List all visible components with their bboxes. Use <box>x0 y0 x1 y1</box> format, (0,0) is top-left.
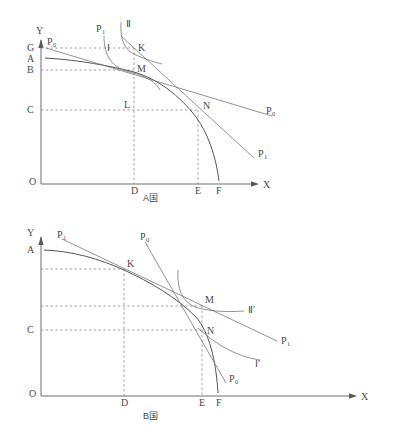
curve-label-p1-right-b: P 1 <box>281 335 290 347</box>
point-label-n-b: N <box>207 325 214 336</box>
tick-label-g-a: G <box>27 42 34 53</box>
svg-text:1: 1 <box>287 340 290 347</box>
curve-label-ic-two-a: Ⅱ <box>126 18 131 29</box>
svg-text:0: 0 <box>235 378 238 385</box>
point-label-k-a: K <box>138 42 146 53</box>
x-axis-label-a: X <box>263 179 271 190</box>
curve-label-p1-top-a: P 1 <box>96 23 105 35</box>
svg-text:1: 1 <box>63 234 66 241</box>
tick-label-b-a: B <box>27 64 34 75</box>
tick-label-c-b: C <box>27 324 34 335</box>
point-label-m-a: M <box>137 63 146 74</box>
curve-label-p1-right-a: P 1 <box>258 148 267 160</box>
tick-label-d-a: D <box>131 185 138 196</box>
tick-label-c-a: C <box>27 104 34 115</box>
gridlines-b <box>41 269 202 396</box>
svg-text:1: 1 <box>102 28 105 35</box>
chart-panel-a: G A B C O D E F Y X K M L N P 0 P 1 P 0 … <box>0 0 394 215</box>
x-axis-arrow-icon-b <box>349 393 357 399</box>
indifference-curve-i-a <box>104 36 160 90</box>
axes-b <box>38 236 357 399</box>
chart-panel-b: A C O D E F Y X K M N P 1 P 0 P 1 P 0 Ⅱ′… <box>0 215 394 431</box>
price-line-p0-a <box>46 48 272 116</box>
indifference-curve-ii-prime-b <box>178 270 244 312</box>
point-label-l-a: L <box>124 99 130 110</box>
point-label-m-b: M <box>205 294 214 305</box>
x-axis-arrow-icon-a <box>251 181 259 187</box>
caption-b: B国 <box>143 411 158 421</box>
tick-label-a-a: A <box>27 53 35 64</box>
curve-label-p0-right-a: P 0 <box>266 105 275 117</box>
svg-text:0: 0 <box>272 110 275 117</box>
svg-text:0: 0 <box>53 41 56 48</box>
origin-label-a: O <box>29 176 36 187</box>
caption-a: A国 <box>143 193 158 203</box>
y-axis-arrow-icon-a <box>38 39 43 48</box>
curve-label-ic-two-prime-b: Ⅱ′ <box>248 304 255 315</box>
point-label-n-a: N <box>203 100 210 111</box>
curve-label-ic-one-a: Ⅰ <box>107 42 110 53</box>
chart-a-svg: G A B C O D E F Y X K M L N P 0 P 1 P 0 … <box>0 0 394 215</box>
curve-label-p0-top-a: P 0 <box>47 36 56 48</box>
tick-label-e-a: E <box>195 185 201 196</box>
price-line-p0-b <box>145 242 226 383</box>
tick-label-a-b: A <box>27 244 35 255</box>
price-line-p1-a <box>121 36 254 158</box>
tick-label-f-b: F <box>216 397 222 408</box>
curve-label-p0-bottom-b: P 0 <box>229 373 238 385</box>
curve-label-p1-top-b: P 1 <box>57 229 66 241</box>
tick-label-d-b: D <box>121 397 128 408</box>
svg-text:0: 0 <box>146 236 149 243</box>
point-label-k-b: K <box>127 258 135 269</box>
tick-label-f-a: F <box>216 185 222 196</box>
y-axis-arrow-icon-b <box>38 236 43 245</box>
y-axis-label-a: Y <box>36 25 43 36</box>
chart-b-svg: A C O D E F Y X K M N P 1 P 0 P 1 P 0 Ⅱ′… <box>0 215 394 431</box>
tick-label-e-b: E <box>199 397 205 408</box>
svg-text:1: 1 <box>264 153 267 160</box>
origin-label-b: O <box>29 388 36 399</box>
ppf-curve-a <box>45 58 219 181</box>
curve-label-p0-top-b: P 0 <box>140 231 149 243</box>
curve-label-ic-one-prime-b: Ⅰ′ <box>255 358 260 369</box>
price-line-p1-b <box>62 239 277 341</box>
y-axis-label-b: Y <box>27 227 34 238</box>
x-axis-label-b: X <box>361 391 369 402</box>
